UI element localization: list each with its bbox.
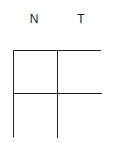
two-by-two-grid	[13, 50, 101, 137]
grid-cell-bottom-left	[14, 94, 58, 138]
column-label-n: N	[24, 12, 44, 26]
grid-cell-top-left	[14, 51, 58, 94]
grid-cell-bottom-right	[58, 94, 102, 138]
column-label-t: T	[71, 12, 91, 26]
grid-cell-top-right	[58, 51, 102, 94]
